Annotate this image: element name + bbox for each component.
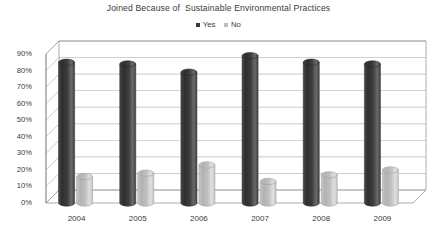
legend-item-yes[interactable]: Yes [196, 21, 215, 29]
legend-swatch-yes [196, 23, 200, 27]
bar-2007-yes [242, 52, 258, 206]
bar-group-2004 [59, 59, 93, 206]
x-axis-tick-2009: 2009 [362, 215, 402, 223]
bar-group-2007 [242, 52, 276, 206]
legend-item-no[interactable]: No [224, 21, 240, 29]
bar-2008-yes [303, 59, 319, 206]
x-axis-tick-2004: 2004 [57, 215, 97, 223]
bar-group-2005 [120, 61, 154, 206]
bar-group-2009 [364, 61, 398, 206]
legend-label-no: No [231, 21, 241, 29]
plot-area [0, 36, 437, 211]
bar-2007-no [260, 178, 276, 206]
bar-2009-yes [364, 61, 380, 206]
bar-2008-no [321, 172, 337, 207]
bar-2006-no [199, 162, 215, 206]
chart-title: Joined Because of Sustainable Environmen… [0, 3, 437, 13]
chart-container: Joined Because of Sustainable Environmen… [0, 0, 437, 238]
x-axis-tick-2008: 2008 [301, 215, 341, 223]
x-axis-labels: 200420052006200720082009 [0, 213, 437, 231]
x-axis-tick-2005: 2005 [118, 215, 158, 223]
x-axis-tick-2007: 2007 [240, 215, 280, 223]
bar-2005-no [138, 170, 154, 206]
bar-2004-yes [59, 59, 75, 206]
bar-group-2008 [303, 59, 337, 206]
bar-2005-yes [120, 61, 136, 206]
x-axis-tick-2006: 2006 [179, 215, 219, 223]
plot-svg [0, 36, 437, 211]
bar-2009-no [382, 167, 398, 207]
bar-2006-yes [181, 69, 197, 206]
bar-group-2006 [181, 69, 215, 206]
legend-label-yes: Yes [203, 21, 216, 29]
bar-2004-no [77, 173, 93, 206]
legend-swatch-no [224, 23, 228, 27]
chart-legend: Yes No [0, 21, 437, 29]
chart-bars [59, 52, 399, 206]
